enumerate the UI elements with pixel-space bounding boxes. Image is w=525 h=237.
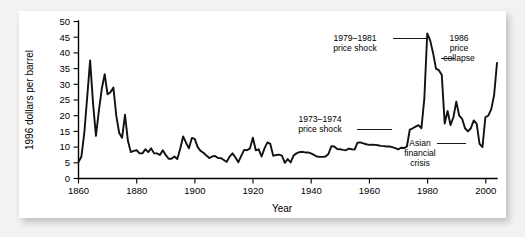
y-tick-label: 50 bbox=[59, 16, 70, 27]
x-tick-label: 1900 bbox=[184, 185, 205, 196]
y-tick-label: 0 bbox=[65, 173, 70, 184]
chart-svg: 0 5 10 15 20 25 30 35 40 45 50 1860 1880 bbox=[0, 0, 525, 237]
y-tick-label: 25 bbox=[59, 94, 70, 105]
x-tick-labels: 1860 1880 1900 1920 1940 1960 1980 2000 bbox=[68, 185, 496, 196]
y-tick-label: 45 bbox=[59, 32, 70, 43]
x-axis-title: Year bbox=[272, 203, 293, 214]
annotation-1986-price-collapse: 1986 price collapse bbox=[441, 33, 475, 63]
annotation-line: price shock bbox=[333, 43, 377, 53]
annotation-line: 1973–1974 bbox=[298, 114, 341, 124]
annotation-line: price bbox=[450, 43, 469, 53]
x-tick-label: 1940 bbox=[301, 185, 322, 196]
x-tick-label: 1880 bbox=[126, 185, 147, 196]
annotation-1973-1974-price-shock: 1973–1974 price shock bbox=[298, 114, 392, 134]
annotation-line: collapse bbox=[443, 53, 475, 63]
y-tick-marks bbox=[74, 22, 79, 179]
annotation-line: price shock bbox=[298, 124, 342, 134]
y-tick-label: 40 bbox=[59, 47, 70, 58]
y-tick-label: 5 bbox=[65, 157, 70, 168]
x-tick-label: 1860 bbox=[68, 185, 89, 196]
y-tick-label: 15 bbox=[59, 126, 70, 137]
x-tick-marks bbox=[79, 179, 486, 184]
oil-price-chart: 0 5 10 15 20 25 30 35 40 45 50 1860 1880 bbox=[0, 0, 525, 237]
annotation-line: Asian bbox=[409, 138, 431, 148]
annotation-line: financial bbox=[404, 148, 436, 158]
y-tick-label: 20 bbox=[59, 110, 70, 121]
x-tick-label: 2000 bbox=[475, 185, 496, 196]
annotation-line: 1986 bbox=[449, 33, 468, 43]
annotation-asian-financial-crisis: Asian financial crisis bbox=[404, 138, 466, 168]
x-tick-label: 1980 bbox=[417, 185, 438, 196]
annotation-line: 1979–1981 bbox=[333, 33, 376, 43]
y-tick-label: 10 bbox=[59, 141, 70, 152]
annotation-1979-1981-price-shock: 1979–1981 price shock bbox=[333, 33, 427, 53]
y-axis-title: 1996 dollars per barrel bbox=[24, 50, 35, 150]
price-series-line bbox=[79, 33, 498, 162]
annotation-line: crisis bbox=[410, 158, 430, 168]
x-tick-label: 1920 bbox=[242, 185, 263, 196]
y-tick-labels: 0 5 10 15 20 25 30 35 40 45 50 bbox=[59, 16, 70, 184]
y-tick-label: 35 bbox=[59, 63, 70, 74]
y-tick-label: 30 bbox=[59, 79, 70, 90]
x-tick-label: 1960 bbox=[359, 185, 380, 196]
